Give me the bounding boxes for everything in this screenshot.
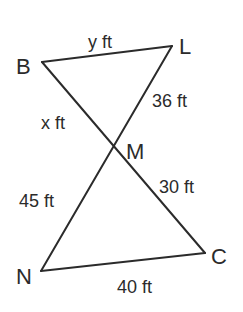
length-label-nc: 40 ft [117, 277, 152, 297]
vertex-label-c: C [211, 244, 227, 269]
length-label-mn: 45 ft [19, 191, 54, 211]
segment-ln [41, 46, 172, 271]
length-label-bm: x ft [41, 113, 65, 133]
vertex-label-l: L [179, 34, 191, 59]
length-label-lm: 36 ft [152, 91, 187, 111]
length-label-mc: 30 ft [159, 177, 194, 197]
length-label-bl: y ft [88, 32, 112, 52]
segment-nc [41, 253, 205, 271]
vertex-label-m: M [126, 139, 144, 164]
vertex-label-b: B [16, 54, 31, 79]
triangle-diagram: B L M N C y ft 36 ft x ft 45 ft 30 ft 40… [0, 0, 243, 312]
vertex-label-n: N [16, 264, 32, 289]
